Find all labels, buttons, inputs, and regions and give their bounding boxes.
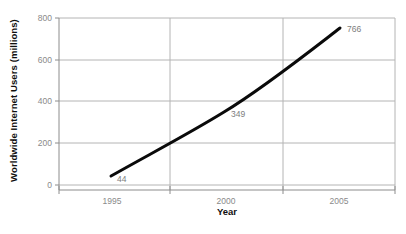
- data-series-line: [111, 28, 340, 176]
- series-path-worldwide-internet-users: [111, 28, 340, 176]
- y-tick-label-400: 400: [38, 96, 52, 106]
- vertical-gridlines: [170, 18, 395, 190]
- y-tick-label-800: 800: [38, 13, 52, 23]
- horizontal-gridlines: [59, 18, 395, 185]
- line-chart: Worldwide Internet Users (millions): [0, 0, 406, 234]
- x-tick-label-2005: 2005: [330, 196, 349, 206]
- x-axis-title: Year: [59, 206, 395, 217]
- data-label-2000: 349: [231, 109, 245, 119]
- x-axis: [59, 186, 395, 194]
- x-tick-labels: 1995 2000 2005: [103, 196, 349, 206]
- y-tick-label-600: 600: [38, 55, 52, 65]
- data-label-2005: 766: [347, 24, 361, 34]
- y-tick-label-200: 200: [38, 138, 52, 148]
- plot-area: 800 600 400 200 0 1995 2000 2005 44 349: [0, 0, 406, 234]
- data-label-1995: 44: [117, 174, 127, 184]
- x-tick-label-1995: 1995: [103, 196, 122, 206]
- y-tick-labels: 800 600 400 200 0: [38, 13, 52, 190]
- y-tick-label-0: 0: [47, 180, 52, 190]
- x-tick-label-2000: 2000: [217, 196, 236, 206]
- y-axis: [55, 18, 59, 190]
